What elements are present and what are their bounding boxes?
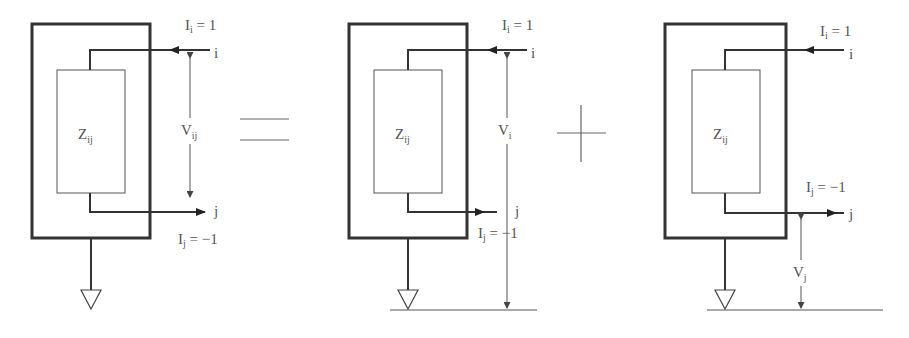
ground-icon (398, 290, 418, 309)
node-i-label: i (849, 46, 853, 62)
node-i-label: i (531, 45, 535, 61)
impedance-box (57, 70, 125, 193)
node-j-label: j (514, 203, 519, 219)
impedance-box (692, 70, 760, 193)
current-j-label: Ij = −1 (478, 225, 518, 243)
panel-combined: Zij Vij Ii = 1 i j Ij = −1 (32, 17, 218, 309)
current-i-label: Ii = 1 (185, 17, 216, 35)
impedance-box (374, 70, 442, 193)
node-j-label: j (213, 203, 218, 219)
current-j-label: Ij = −1 (806, 179, 846, 197)
equals-operator (240, 119, 289, 140)
ground-icon (715, 290, 735, 309)
current-i-label: Ii = 1 (820, 23, 851, 41)
panel-node-i-contribution: Zij Vi Ii = 1 i j Ij = −1 (349, 17, 537, 310)
plus-operator (557, 105, 606, 162)
ground-icon (81, 290, 101, 309)
wire-j (90, 193, 205, 212)
node-j-label: j (848, 206, 853, 222)
superposition-diagram: Zij Vij Ii = 1 i j Ij = −1 Zij (0, 0, 909, 338)
wire-j (408, 193, 497, 212)
current-j-label: Ij = −1 (178, 231, 218, 249)
current-i-label: Ii = 1 (502, 17, 533, 35)
node-i-label: i (214, 45, 218, 61)
panel-node-j-contribution: Zij Vj Ii = 1 i j Ij = −1 (665, 23, 883, 310)
